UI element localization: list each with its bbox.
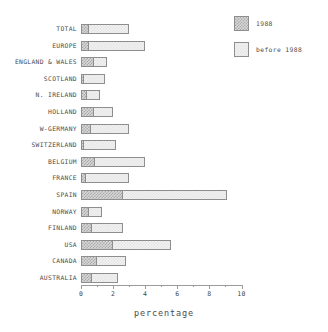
bar-segment-before (83, 74, 105, 84)
bar-segment-before (93, 107, 113, 117)
category-label: SCOTLAND (0, 75, 77, 82)
plot-area (81, 20, 241, 285)
x-tick-minor (97, 285, 98, 287)
legend-label: 1988 (256, 20, 273, 28)
category-label: SWITZERLAND (0, 141, 77, 148)
x-tick-label: 6 (167, 290, 187, 298)
bar-segment-before (91, 273, 118, 283)
bar-segment-before (112, 240, 171, 250)
category-label: ENGLAND & WALES (0, 58, 77, 65)
x-tick-major (113, 285, 114, 289)
category-label: FRANCE (0, 174, 77, 181)
x-tick-label: 8 (199, 290, 219, 298)
bar-segment-before (122, 190, 227, 200)
bar-segment-before (86, 90, 100, 100)
bar-segment-before (88, 207, 102, 217)
x-tick-major (145, 285, 146, 289)
x-tick-major (177, 285, 178, 289)
x-tick-minor (129, 285, 130, 287)
category-axis-labels: TOTALEUROPEENGLAND & WALESSCOTLANDN. IRE… (0, 20, 77, 285)
bar-segment-recent (81, 190, 123, 200)
category-label: USA (0, 241, 77, 248)
bar-chart: TOTALEUROPEENGLAND & WALESSCOTLANDN. IRE… (0, 0, 328, 332)
bar-segment-before (94, 157, 145, 167)
category-label: TOTAL (0, 25, 77, 32)
category-label: HOLLAND (0, 108, 77, 115)
x-tick-label: 10 (232, 290, 252, 298)
bar-segment-before (83, 140, 116, 150)
x-tick-label: 2 (103, 290, 123, 298)
bar-segment-recent (81, 240, 113, 250)
x-tick-label: 0 (71, 290, 91, 298)
bar-segment-before (85, 173, 129, 183)
x-tick-minor (193, 285, 194, 287)
category-label: NORWAY (0, 208, 77, 215)
category-label: SPAIN (0, 191, 77, 198)
bar-segment-before (88, 41, 145, 51)
legend-swatch-before (234, 42, 249, 57)
bar-segment-before (91, 223, 122, 233)
category-label: AUSTRALIA (0, 274, 77, 281)
category-label: BELGIUM (0, 158, 77, 165)
x-tick-major (209, 285, 210, 289)
x-tick-major (81, 285, 82, 289)
x-tick-major (242, 285, 243, 289)
bar-segment-recent (81, 157, 95, 167)
legend-swatch-recent (234, 16, 249, 31)
legend-label: before 1988 (256, 46, 302, 54)
category-label: N. IRELAND (0, 91, 77, 98)
x-tick-minor (161, 285, 162, 287)
bar-segment-recent (81, 256, 97, 266)
category-label: CANADA (0, 257, 77, 264)
bar-segment-before (93, 57, 107, 67)
bar-segment-before (88, 24, 129, 34)
bar-segment-before (90, 124, 130, 134)
category-label: W-GERMANY (0, 125, 77, 132)
x-tick-minor (225, 285, 226, 287)
bar-segment-before (96, 256, 126, 266)
x-axis-title: percentage (0, 308, 328, 318)
x-tick-label: 4 (135, 290, 155, 298)
category-label: EUROPE (0, 42, 77, 49)
category-label: FINLAND (0, 224, 77, 231)
